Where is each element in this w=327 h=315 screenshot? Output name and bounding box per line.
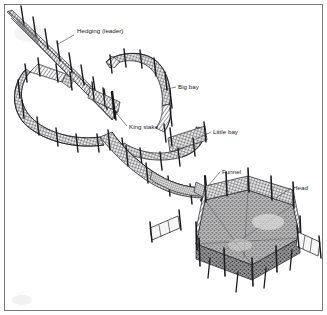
head-floor-highlight-2 (228, 239, 252, 251)
label-king-stake: King stake (129, 123, 159, 130)
figure-root: Hedging (leader)Big bayKing stakeLittle … (0, 0, 327, 315)
label-hedging: Hedging (leader) (77, 27, 123, 34)
label-funnel: Funnel (222, 168, 241, 175)
label-head: Head (293, 184, 308, 191)
weir-diagram: Hedging (leader)Big bayKing stakeLittle … (0, 0, 327, 315)
label-little-bay: Little bay (213, 128, 239, 135)
head-floor-highlight (252, 214, 284, 230)
label-big-bay: Big bay (178, 83, 200, 90)
scan-smudge (12, 295, 32, 305)
